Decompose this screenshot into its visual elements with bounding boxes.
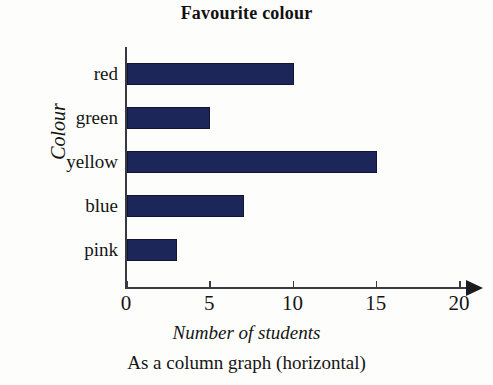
bar-row: green — [126, 107, 466, 129]
x-tick — [376, 281, 378, 289]
x-tick — [126, 281, 128, 289]
bar-yellow — [127, 151, 377, 173]
bar-green — [127, 107, 210, 129]
x-tick-label: 5 — [179, 291, 239, 316]
bar-pink — [127, 239, 177, 261]
x-tick — [293, 281, 295, 289]
figure-caption: As a column graph (horizontal) — [0, 352, 493, 374]
category-label: blue — [0, 195, 118, 217]
y-axis-title: Colour — [47, 72, 70, 192]
bar-row: pink — [126, 239, 466, 261]
bar-row: yellow — [126, 151, 466, 173]
category-label: pink — [0, 239, 118, 261]
x-axis-line — [125, 287, 468, 289]
x-tick-label: 0 — [96, 291, 156, 316]
chart-title: Favourite colour — [0, 3, 493, 24]
bar-chart-figure: Favourite colour redgreenyellowbluepink … — [0, 0, 493, 385]
x-tick-label: 15 — [346, 291, 406, 316]
plot-area: redgreenyellowbluepink 05101520 — [126, 47, 466, 287]
bar-row: blue — [126, 195, 466, 217]
bar-row: red — [126, 63, 466, 85]
x-tick — [459, 281, 461, 289]
x-axis-title: Number of students — [0, 322, 493, 344]
x-tick — [209, 281, 211, 289]
x-tick-label: 10 — [263, 291, 323, 316]
x-tick-label: 20 — [429, 291, 489, 316]
bar-red — [127, 63, 294, 85]
bar-blue — [127, 195, 244, 217]
